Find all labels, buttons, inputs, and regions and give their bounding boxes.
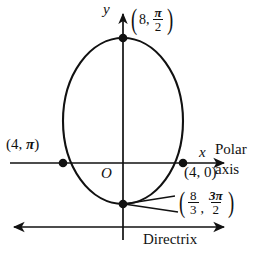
point-top-theta-fraction: π 2 <box>153 6 164 34</box>
y-axis-label: y <box>103 2 110 17</box>
x-axis-label: x <box>199 145 206 160</box>
point-bottom-theta-fraction: 3π 2 <box>207 189 225 217</box>
point-top-label: ( 8 , π 2 ) <box>129 6 175 34</box>
polar-ellipse-figure: y x Polar axis O ( 8 , π 2 ) (4, π) (4, … <box>0 0 276 262</box>
point-left-pi: π <box>26 136 34 152</box>
point-bottom-radius-numerator: 8 <box>188 189 199 202</box>
point-bottom-theta-numerator: 3π <box>207 189 225 202</box>
point-left-prefix: (4, <box>6 136 26 152</box>
point-bottom-radius-fraction: 8 3 <box>188 189 199 217</box>
origin-label: O <box>101 166 112 181</box>
open-paren: ( <box>179 190 185 215</box>
bottom-point-leader-line-2 <box>124 196 175 204</box>
point-bottom-label: ( 8 3 , 3π 2 ) <box>177 189 236 217</box>
point-top-theta-denominator: 2 <box>153 19 164 33</box>
point-top-theta-numerator: π <box>153 6 164 19</box>
point-bottom-comma: , <box>201 202 205 217</box>
bottom-point-leader-line <box>124 204 178 212</box>
figure-canvas <box>0 0 276 262</box>
point-right-label: (4, 0) <box>184 165 217 180</box>
vertex-dot-left <box>59 159 68 168</box>
point-left-label: (4, π) <box>6 137 39 152</box>
point-bottom-label-math: ( 8 3 , 3π 2 ) <box>177 189 236 217</box>
point-top-radius: 8 <box>139 13 146 27</box>
point-left-suffix: ) <box>34 136 39 152</box>
polar-axis-label-line1: Polar <box>215 142 247 157</box>
point-top-label-math: ( 8 , π 2 ) <box>129 6 175 34</box>
close-paren: ) <box>228 190 234 215</box>
point-bottom-radius-denominator: 3 <box>188 202 199 216</box>
close-paren: ) <box>167 7 173 32</box>
directrix-label: Directrix <box>143 232 197 247</box>
polar-axis-label-line2: axis <box>215 162 239 177</box>
open-paren: ( <box>131 7 137 32</box>
point-bottom-theta-denominator: 2 <box>211 202 222 216</box>
point-top-comma: , <box>146 13 150 27</box>
vertex-dot-bottom <box>119 200 128 209</box>
vertex-dot-top <box>119 34 128 43</box>
